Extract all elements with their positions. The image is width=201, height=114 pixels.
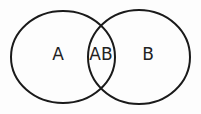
region-a-label: A	[52, 44, 64, 64]
region-ab-label: AB	[89, 44, 112, 64]
venn-diagram: A AB B	[0, 0, 201, 114]
region-b-label: B	[142, 44, 154, 64]
